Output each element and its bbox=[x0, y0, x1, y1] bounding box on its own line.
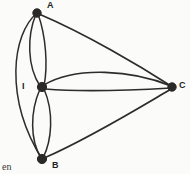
node-label-i: I bbox=[22, 82, 25, 91]
node-i bbox=[37, 82, 46, 91]
node-label-a: A bbox=[47, 1, 54, 10]
node-label-b: B bbox=[52, 161, 59, 170]
edge-i-c-straight bbox=[45, 88, 171, 91]
node-label-c: C bbox=[179, 81, 186, 90]
edge-a-c bbox=[39, 14, 171, 86]
node-a bbox=[33, 9, 41, 17]
node-b bbox=[37, 154, 46, 163]
node-c bbox=[168, 83, 176, 91]
edge-i-b-right bbox=[43, 89, 51, 158]
caption-text-fragment: en bbox=[2, 162, 11, 172]
edge-b-c bbox=[44, 89, 171, 158]
edge-i-b-left bbox=[33, 89, 41, 158]
edge-a-i-right bbox=[38, 14, 46, 86]
graph-canvas bbox=[0, 0, 190, 174]
graph-figure: A I B C en bbox=[0, 0, 190, 174]
edge-a-i-left bbox=[30, 14, 40, 86]
